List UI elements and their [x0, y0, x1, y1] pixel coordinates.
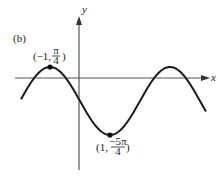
min-label-prefix: (1, — [96, 141, 108, 154]
panel-label: (b) — [13, 32, 26, 45]
minimum-point-label: (1, −5π 4 ) — [96, 135, 130, 157]
graph-canvas: y x (b) (−1, π 4 ) (1, −5π 4 ) — [0, 0, 218, 176]
x-axis-arrow-icon — [201, 75, 210, 81]
y-axis-arrow-icon — [76, 16, 82, 25]
y-axis-label: y — [81, 3, 87, 15]
x-axis-label: x — [210, 71, 216, 83]
sinusoid-curve — [21, 67, 206, 135]
max-label-denominator: 4 — [53, 54, 59, 66]
maximum-point — [47, 64, 52, 69]
maximum-point-label: (−1, π 4 ) — [33, 44, 66, 66]
max-label-suffix: ) — [62, 50, 66, 63]
min-label-denominator: 4 — [115, 145, 121, 157]
max-label-prefix: (−1, — [33, 50, 51, 63]
min-label-suffix: ) — [126, 141, 130, 154]
